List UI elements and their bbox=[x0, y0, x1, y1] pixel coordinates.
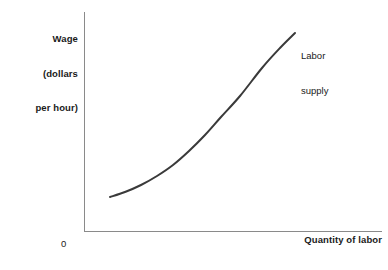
chart-figure: Wage (dollars per hour) Quantity of labo… bbox=[0, 0, 388, 270]
curve-label-line-2: supply bbox=[301, 85, 328, 97]
x-axis-label: Quantity of labor bbox=[304, 234, 382, 246]
labor-supply-curve bbox=[110, 33, 295, 197]
y-axis-label-line-1: Wage bbox=[0, 33, 78, 45]
labor-supply-curve-label: Labor supply bbox=[301, 27, 328, 119]
curve-label-line-1: Labor bbox=[301, 50, 328, 62]
origin-label: 0 bbox=[61, 238, 66, 250]
y-axis-label: Wage (dollars per hour) bbox=[0, 10, 78, 137]
y-axis-label-line-3: per hour) bbox=[0, 102, 78, 114]
y-axis-label-line-2: (dollars bbox=[0, 68, 78, 80]
